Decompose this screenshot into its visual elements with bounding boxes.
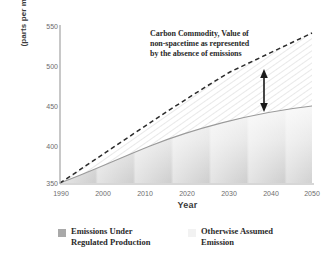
annotation-line-2: non-spacetime as represented (150, 39, 288, 49)
legend-label-assumed: Otherwise Assumed Emission (201, 226, 273, 247)
legend-swatch-icon-assumed (188, 229, 196, 237)
legend-item-assumed: Otherwise Assumed Emission (188, 226, 273, 247)
annotation-line-1: Carbon Commodity, Value of (150, 29, 288, 39)
emissions-chart: Level of Emissions (parts per million at… (0, 0, 329, 264)
legend-label-regulated: Emissions Under Regulated Production (71, 226, 150, 247)
x-axis-title: Year (60, 200, 315, 210)
carbon-commodity-annotation: Carbon Commodity, Value of non-spacetime… (150, 29, 288, 60)
legend-item-regulated: Emissions Under Regulated Production (58, 226, 150, 247)
annotation-line-3: by the absence of emissions (150, 49, 288, 59)
chart-legend: Emissions Under Regulated Production Oth… (0, 224, 329, 260)
legend-swatch-icon-regulated (58, 229, 66, 237)
